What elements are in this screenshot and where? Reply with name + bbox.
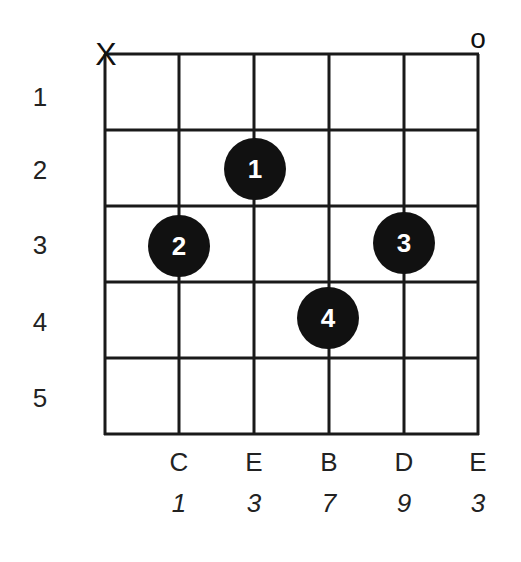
- fret-label-1: 1: [20, 82, 60, 112]
- finger-dot-1: 1: [224, 138, 286, 200]
- interval-label-3: 7: [309, 488, 349, 518]
- interval-label-2: 3: [234, 488, 274, 518]
- note-label-2: E: [234, 447, 274, 477]
- chord-diagram: X o 1 2 3 4 5 1 2 3 4 C E B D E 1 3 7 9 …: [0, 0, 521, 562]
- interval-label-4: 9: [384, 488, 424, 518]
- interval-label-5: 3: [458, 488, 498, 518]
- open-string-marker: o: [463, 24, 493, 54]
- note-label-5: E: [458, 447, 498, 477]
- muted-string-marker: X: [91, 39, 121, 69]
- note-label-3: B: [309, 447, 349, 477]
- fret-label-2: 2: [20, 155, 60, 185]
- finger-dot-3: 3: [373, 212, 435, 274]
- note-label-1: C: [159, 447, 199, 477]
- fret-label-3: 3: [20, 230, 60, 260]
- fretboard-grid: [0, 0, 521, 562]
- fret-label-4: 4: [20, 307, 60, 337]
- note-label-4: D: [384, 447, 424, 477]
- finger-dot-2: 2: [148, 215, 210, 277]
- fret-label-5: 5: [20, 383, 60, 413]
- finger-dot-4: 4: [297, 287, 359, 349]
- interval-label-1: 1: [159, 488, 199, 518]
